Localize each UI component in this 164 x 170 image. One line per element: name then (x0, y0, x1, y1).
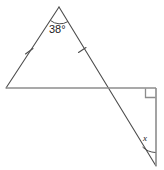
geometry-figure: 38° x (0, 0, 164, 170)
apex-angle-label: 38° (49, 24, 66, 35)
unknown-angle-label: x (143, 134, 147, 143)
geometry-diagram-svg (0, 0, 164, 170)
right-angle-square-icon (146, 89, 156, 98)
triangle-right-side-transversal (59, 7, 156, 166)
triangle-left-side (6, 7, 59, 88)
